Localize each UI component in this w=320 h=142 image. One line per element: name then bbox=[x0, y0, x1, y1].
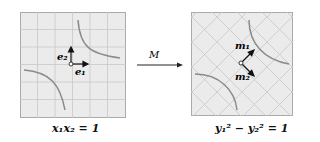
origin-marker bbox=[69, 62, 73, 66]
map-arrow bbox=[136, 60, 184, 70]
origin-marker bbox=[239, 61, 243, 65]
e1-label: e₁ bbox=[75, 66, 86, 77]
e2-label: e₂ bbox=[57, 51, 68, 62]
left-hyperbola-plot bbox=[20, 12, 126, 118]
m1-label: m₁ bbox=[235, 40, 250, 51]
m2-label: m₂ bbox=[235, 71, 250, 82]
right-caption: y₁² − y₂² = 1 bbox=[215, 122, 288, 135]
right-hyperbola-plot bbox=[191, 12, 293, 116]
left-caption: x₁x₂ = 1 bbox=[52, 122, 99, 135]
map-label: M bbox=[149, 49, 159, 60]
